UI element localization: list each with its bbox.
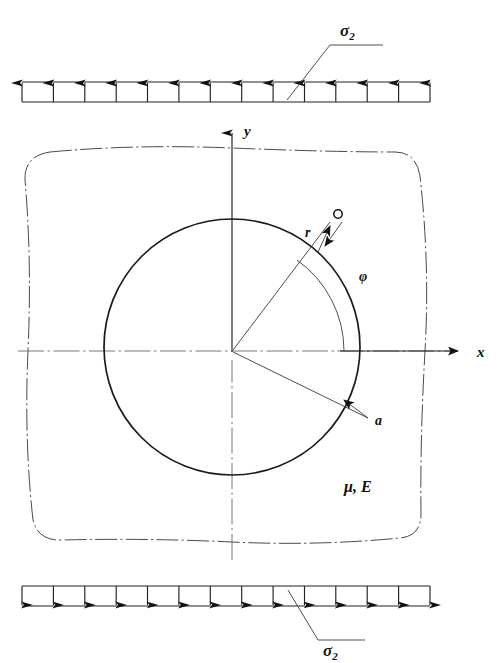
top-band-arrows xyxy=(22,83,430,102)
hole-radius-arrow xyxy=(344,400,368,418)
bottom-load-band: σ2 xyxy=(22,586,430,662)
field-point-marker xyxy=(334,210,342,218)
sigma-bottom-label: σ2 xyxy=(323,641,338,662)
hole-radius-line xyxy=(233,352,368,418)
radius-label: r xyxy=(305,225,311,240)
y-axis-label: y xyxy=(242,123,251,139)
phi-label: φ xyxy=(359,269,367,284)
hole-radius-label: a xyxy=(375,413,382,428)
sigma-top-label: σ2 xyxy=(340,21,355,42)
sigma-top-leader-line xyxy=(287,45,383,100)
radius-line xyxy=(233,222,330,350)
top-load-band: σ2 xyxy=(22,21,430,102)
x-axis-label: x xyxy=(476,344,485,360)
figure-container: σ2 y x r φ a μ, E xyxy=(0,0,500,663)
bottom-band-arrows xyxy=(22,586,430,605)
angle-annotation: φ xyxy=(297,260,367,351)
centerlines xyxy=(18,351,455,560)
material-constants-label: μ, E xyxy=(343,478,372,496)
sigma-bottom-leader-line xyxy=(288,590,365,640)
stress-diagram: σ2 y x r φ a μ, E xyxy=(0,0,500,663)
